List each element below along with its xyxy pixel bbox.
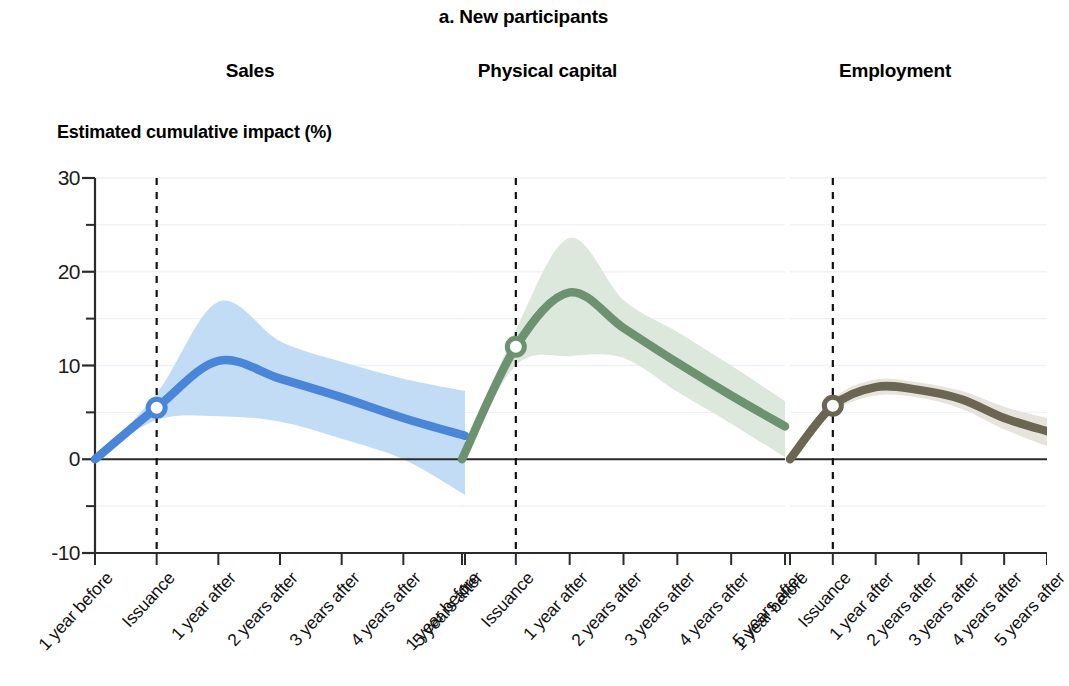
figure-root: a. New participants Sales Physical capit… <box>0 0 1047 686</box>
